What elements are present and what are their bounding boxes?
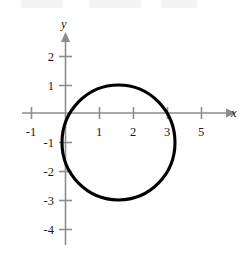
y-tick-label-2: 2 (48, 50, 54, 64)
y-tick-label--3: -3 (44, 194, 54, 208)
x-tick-label-5: 5 (198, 125, 204, 139)
y-tick-label-1: 1 (48, 79, 54, 93)
y-tick-label--4: -4 (44, 223, 55, 237)
graph-figure: -1 1 2 3 5 2 1 -1 -2 -3 -4 x y (0, 0, 245, 257)
circle-curve (62, 85, 175, 200)
x-tick-label-3: 3 (164, 125, 170, 139)
y-axis-arrowhead (61, 32, 70, 42)
x-tick-label--1: -1 (26, 125, 36, 139)
page-edge-artifact (0, 0, 245, 8)
coordinate-plane: -1 1 2 3 5 2 1 -1 -2 -3 -4 x y (0, 0, 245, 257)
y-axis-label: y (59, 17, 67, 31)
x-tick-label-2: 2 (130, 125, 136, 139)
y-tick-label--2: -2 (44, 165, 54, 179)
x-tick-label-1: 1 (96, 125, 102, 139)
y-tick-label--1: -1 (44, 136, 54, 150)
x-axis-label: x (230, 106, 237, 120)
